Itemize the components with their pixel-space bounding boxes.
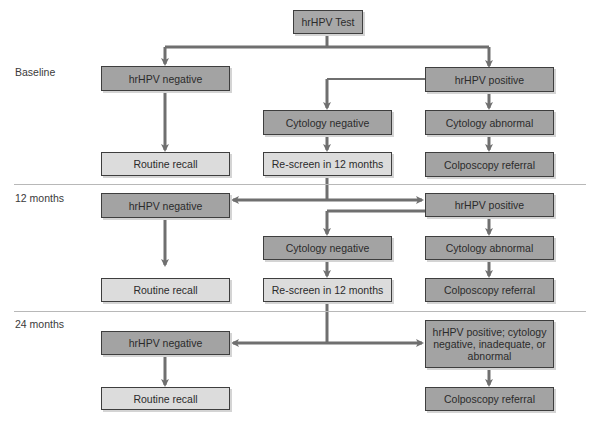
box-label: Re-screen in 12 months <box>272 158 383 170</box>
box-label: Routine recall <box>133 158 197 170</box>
m24-hpv-negative-box: hrHPV negative <box>101 331 230 355</box>
box-label: Cytology abnormal <box>446 117 534 129</box>
m12-colposcopy-box: Colposcopy referral <box>425 278 554 302</box>
box-label: hrHPV negative <box>129 200 203 212</box>
row-label-24-months: 24 months <box>15 318 64 330</box>
m12-hpv-negative-box: hrHPV negative <box>101 193 230 218</box>
box-label: hrHPV negative <box>129 337 203 349</box>
m12-hpv-positive-box: hrHPV positive <box>425 193 554 217</box>
m12-cytology-negative-box: Cytology negative <box>263 236 392 260</box>
box-label: hrHPV positive; cytology negative, inade… <box>430 326 549 362</box>
box-label: hrHPV positive <box>455 74 524 86</box>
m24-hpv-positive-combined-box: hrHPV positive; cytology negative, inade… <box>425 320 554 368</box>
baseline-rescreen-box: Re-screen in 12 months <box>263 152 392 176</box>
box-label: Routine recall <box>133 393 197 405</box>
baseline-routine-recall-box: Routine recall <box>101 152 230 176</box>
box-label: Cytology negative <box>286 117 369 129</box>
row-divider <box>14 184 586 185</box>
box-label: hrHPV positive <box>455 199 524 211</box>
box-label: hrHPV negative <box>129 73 203 85</box>
box-label: Cytology negative <box>286 242 369 254</box>
baseline-hpv-negative-box: hrHPV negative <box>101 66 230 91</box>
box-label: Colposcopy referral <box>444 393 535 405</box>
m24-colposcopy-box: Colposcopy referral <box>425 387 554 411</box>
m12-routine-recall-box: Routine recall <box>101 278 230 302</box>
box-label: Cytology abnormal <box>446 242 534 254</box>
baseline-colposcopy-box: Colposcopy referral <box>425 152 554 177</box>
m12-cytology-abnormal-box: Cytology abnormal <box>425 236 554 260</box>
row-label-baseline: Baseline <box>15 66 55 78</box>
box-label: Routine recall <box>133 284 197 296</box>
baseline-hpv-positive-box: hrHPV positive <box>425 67 554 92</box>
row-divider <box>14 311 586 312</box>
hrhpv-test-box: hrHPV Test <box>293 10 363 34</box>
m24-routine-recall-box: Routine recall <box>101 387 230 410</box>
baseline-cytology-negative-box: Cytology negative <box>263 110 392 135</box>
row-label-12-months: 12 months <box>15 192 64 204</box>
flowchart: hrHPV Test Baseline hrHPV negative hrHPV… <box>0 0 594 423</box>
m12-rescreen-box: Re-screen in 12 months <box>263 278 392 302</box>
box-label: Colposcopy referral <box>444 284 535 296</box>
box-label: hrHPV Test <box>302 16 355 28</box>
baseline-cytology-abnormal-box: Cytology abnormal <box>425 110 554 135</box>
box-label: Re-screen in 12 months <box>272 284 383 296</box>
box-label: Colposcopy referral <box>444 159 535 171</box>
